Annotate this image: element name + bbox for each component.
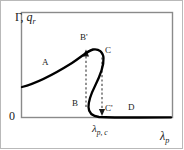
x-axis-tick-label: λp, c — [92, 123, 108, 137]
jump-up-arrow — [83, 50, 89, 108]
annotation-label-b-prime: B' — [80, 33, 88, 42]
y-axis-q-subscript: r — [33, 17, 36, 26]
annotation-label-c: C — [105, 46, 111, 55]
y-axis-label: Γ, qr — [15, 11, 36, 27]
annotation-label-a: A — [42, 58, 49, 67]
annotation-label-b: B — [72, 99, 78, 108]
figure-container: Γ, qr 0 λp, c λp A B' C B C' D — [0, 0, 184, 150]
annotation-label-c-prime: C' — [105, 104, 113, 113]
x-tick-subscript: p, c — [97, 128, 108, 137]
x-axis-subscript: p — [165, 136, 169, 145]
annotation-label-d: D — [128, 103, 135, 112]
origin-label: 0 — [9, 110, 15, 122]
x-axis-label: λp — [160, 130, 169, 146]
